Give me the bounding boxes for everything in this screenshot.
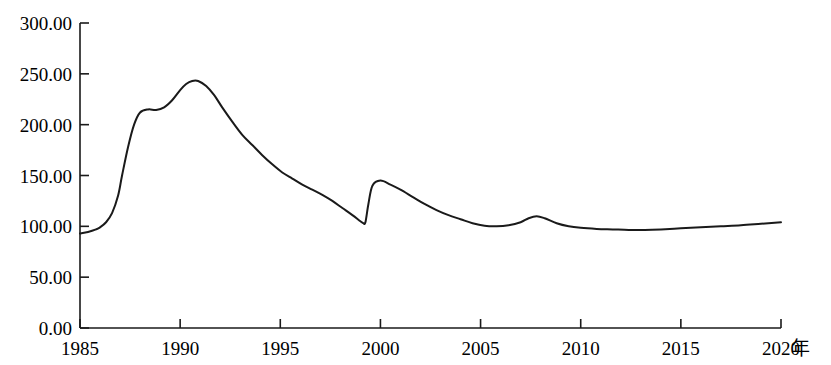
x-axis-tick-label: 2010	[562, 339, 600, 358]
data-line-series	[80, 80, 781, 233]
y-axis-tick-label: 250.00	[0, 64, 72, 83]
x-axis-tick-label: 1985	[61, 339, 99, 358]
x-axis-tick-label: 2015	[662, 339, 700, 358]
line-chart: 0.0050.00100.00150.00200.00250.00300.00 …	[0, 0, 831, 365]
x-axis-unit-label: 年	[791, 339, 810, 358]
x-axis-ticks	[80, 319, 781, 328]
y-axis-ticks	[80, 23, 89, 328]
y-axis-tick-label: 200.00	[0, 115, 72, 134]
axis-lines	[80, 23, 781, 328]
y-axis-tick-label: 50.00	[0, 268, 72, 287]
y-axis-tick-label: 150.00	[0, 166, 72, 185]
y-axis-tick-label: 0.00	[0, 319, 72, 338]
x-axis-tick-label: 2000	[361, 339, 399, 358]
x-axis-tick-label: 1995	[261, 339, 299, 358]
y-axis-tick-label: 300.00	[0, 14, 72, 33]
y-axis-tick-label: 100.00	[0, 217, 72, 236]
chart-plot-area	[0, 0, 831, 365]
x-axis-tick-label: 2005	[462, 339, 500, 358]
x-axis-tick-label: 1990	[161, 339, 199, 358]
